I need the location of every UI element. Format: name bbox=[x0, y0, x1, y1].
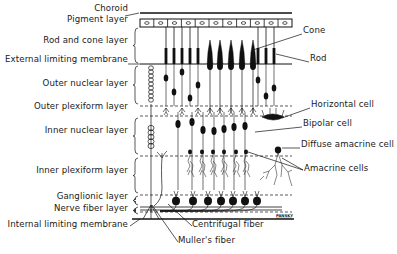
pigment-granule-icon bbox=[283, 22, 287, 25]
label-pigment-layer: Pigment layer bbox=[67, 14, 128, 24]
label-external-limiting-membrane: External limiting membrane bbox=[5, 54, 128, 64]
synaptic-terminal bbox=[228, 108, 234, 115]
pigment-granule-icon bbox=[228, 22, 232, 25]
rod-segment bbox=[273, 48, 276, 64]
rod-nucleus bbox=[196, 81, 201, 88]
label-bipolar-cell: Bipolar cell bbox=[303, 118, 352, 128]
rod-nucleus bbox=[256, 76, 261, 83]
amacrine-dendrites bbox=[199, 155, 206, 177]
diffuse-amacrine-dendrites bbox=[260, 153, 292, 186]
ganglion-dendrite bbox=[174, 191, 178, 197]
synaptic-terminal bbox=[239, 108, 245, 115]
layer-brace bbox=[133, 207, 138, 214]
label-cone: Cone bbox=[303, 25, 325, 35]
amacrine-cell-soma bbox=[200, 150, 204, 155]
amacrine-dendrites bbox=[243, 155, 250, 177]
ganglion-dendrite bbox=[231, 191, 235, 197]
ganglion-cell bbox=[241, 197, 249, 205]
label-diffuse-amacrine-cell: Diffuse amacrine cell bbox=[301, 139, 394, 149]
rod-nucleus bbox=[264, 92, 269, 99]
rod-segment bbox=[197, 48, 200, 64]
centrifugal-fiber bbox=[154, 158, 162, 206]
amacrine-cell-soma bbox=[188, 150, 192, 155]
synaptic-terminal bbox=[217, 108, 223, 115]
label-inner-plexiform-layer: Inner plexiform layer bbox=[36, 165, 128, 175]
rod-nucleus bbox=[164, 74, 169, 81]
label-outer-plexiform-layer: Outer plexiform layer bbox=[34, 101, 128, 111]
layer-brace bbox=[133, 28, 138, 63]
rod-segment bbox=[265, 48, 268, 64]
label-choroid: Choroid bbox=[94, 3, 128, 13]
ganglion-cell bbox=[189, 197, 197, 205]
amacrine-cell-soma bbox=[222, 150, 226, 155]
ganglion-dendrite bbox=[191, 191, 195, 197]
ganglion-dendrite bbox=[219, 191, 223, 197]
synaptic-terminal bbox=[163, 108, 169, 115]
rod-segment bbox=[165, 48, 168, 64]
pigment-granule-icon bbox=[241, 22, 245, 25]
synaptic-terminal bbox=[179, 108, 185, 115]
synaptic-terminal bbox=[250, 108, 256, 115]
amacrine-dendrites bbox=[187, 155, 194, 177]
rod-segment bbox=[181, 48, 184, 64]
pigment-granule-icon bbox=[214, 22, 218, 25]
amacrine-cell-soma bbox=[211, 150, 215, 155]
horizontal-cell-leader bbox=[282, 108, 310, 118]
amacrine-cell-soma bbox=[234, 150, 238, 155]
bipolar-cell-leader bbox=[255, 127, 302, 132]
cone-outer-segment bbox=[217, 40, 223, 64]
layer-brace bbox=[133, 118, 138, 154]
pigment-granule-icon bbox=[269, 22, 273, 25]
rod-nucleus bbox=[180, 68, 185, 75]
layer-brace bbox=[133, 196, 138, 205]
ganglion-cell bbox=[172, 197, 180, 205]
ganglion-cell bbox=[229, 197, 237, 205]
horizontal-cell-body bbox=[262, 114, 284, 120]
label-inner-nuclear-layer: Inner nuclear layer bbox=[45, 125, 128, 135]
rod-nucleus bbox=[188, 94, 193, 101]
ganglion-cell bbox=[217, 197, 225, 205]
label-mullers-fiber: Muller's fiber bbox=[178, 235, 235, 245]
rod-segment bbox=[189, 48, 192, 64]
artist-signature: PANSKY bbox=[276, 213, 293, 218]
rod-nucleus bbox=[172, 88, 177, 95]
label-internal-limiting-membrane: Internal limiting membrane bbox=[8, 219, 128, 229]
pigment-granule-icon bbox=[145, 22, 149, 25]
cone-outer-segment bbox=[239, 40, 245, 64]
rod-nucleus bbox=[272, 84, 277, 91]
pigment-granule-icon bbox=[172, 22, 176, 25]
pigment-granule-icon bbox=[186, 22, 190, 25]
synaptic-terminal bbox=[195, 108, 201, 115]
diffuse-amacrine-soma bbox=[275, 147, 281, 154]
pigment-granule-icon bbox=[255, 22, 259, 25]
layer-brace bbox=[133, 66, 138, 104]
label-rod-and-cone-layer: Rod and cone layer bbox=[43, 35, 128, 45]
cone-outer-segment bbox=[228, 40, 234, 64]
label-amacrine-cells: Amacrine cells bbox=[304, 163, 368, 173]
cone-outer-segment bbox=[250, 40, 256, 64]
internal-limiting-leader bbox=[130, 219, 140, 226]
layer-brace bbox=[133, 158, 138, 193]
amacrine-cell-soma bbox=[244, 150, 248, 155]
amacrine-dendrites bbox=[210, 155, 217, 177]
rod-segment bbox=[257, 48, 260, 64]
ganglion-dendrite bbox=[255, 191, 259, 197]
ganglion-cell bbox=[204, 197, 212, 205]
label-horizontal-cell: Horizontal cell bbox=[311, 99, 374, 109]
cone-leader bbox=[253, 34, 302, 50]
mullers-fiber-leader bbox=[152, 205, 178, 242]
ganglion-cell bbox=[253, 197, 261, 205]
synaptic-terminal bbox=[207, 108, 213, 115]
label-ganglionic-layer: Ganglionic layer bbox=[57, 191, 128, 201]
ganglion-dendrite bbox=[243, 191, 247, 197]
label-rod: Rod bbox=[310, 53, 327, 63]
rod-segment bbox=[173, 48, 176, 64]
centrifugal-branches bbox=[157, 151, 167, 158]
label-outer-nuclear-layer: Outer nuclear layer bbox=[43, 78, 128, 88]
pigment-granule-icon bbox=[159, 22, 163, 25]
pigment-granule-icon bbox=[200, 22, 204, 25]
rod-leader bbox=[276, 54, 309, 62]
retina-layers-diagram: PANSKY ChoroidPigment layerRod and cone … bbox=[0, 0, 397, 254]
amacrine-dendrites bbox=[221, 155, 228, 177]
label-centrifugal-fiber: Centrifugal fiber bbox=[192, 219, 264, 229]
